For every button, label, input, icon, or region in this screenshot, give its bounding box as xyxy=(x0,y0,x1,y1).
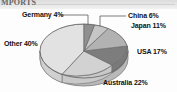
slice-label-australia: Australia 22% xyxy=(103,79,148,87)
slice-label-germany: Germany 4% xyxy=(22,11,63,19)
slice-label-china: China 6% xyxy=(128,12,159,20)
pie-chart: Germany 4% China 6% Japan 11% USA 17% Au… xyxy=(0,9,177,92)
slice-label-usa: USA 17% xyxy=(137,48,167,56)
slice-label-other: Other 40% xyxy=(4,40,38,48)
leader-line-china xyxy=(100,16,126,26)
slice-label-japan: Japan 11% xyxy=(131,22,166,30)
header-divider xyxy=(34,4,175,5)
page-title: MPORTS xyxy=(1,0,36,7)
chart-screenshot: MPORTS xyxy=(0,0,177,92)
leader-line-germany xyxy=(60,15,88,25)
